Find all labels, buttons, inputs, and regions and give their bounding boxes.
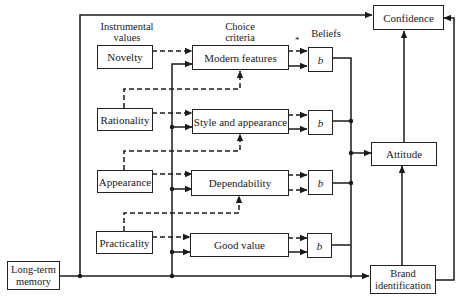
outcome-confidence: Confidence <box>373 5 444 30</box>
header-choice-criteria: Choice criteria <box>215 21 265 43</box>
criteria-modern-features: Modern features <box>192 45 289 70</box>
header-instrumental-values: Instrumental values <box>92 21 162 43</box>
criteria-good-value: Good value <box>190 233 289 257</box>
value-appearance: Appearance <box>97 170 153 193</box>
criteria-dependability: Dependability <box>191 170 289 196</box>
value-novelty: Novelty <box>97 45 153 69</box>
outcome-attitude: Attitude <box>371 142 437 166</box>
belief-box-2: b <box>308 110 333 135</box>
belief-box-1: b <box>308 47 333 72</box>
value-rationality: Rationality <box>97 108 153 131</box>
belief-box-3: b <box>308 170 333 195</box>
source-long-term-memory: Long-term memory <box>7 261 60 290</box>
header-beliefs: Beliefs <box>306 28 346 39</box>
outcome-brand-identification: Brand identification <box>370 265 436 294</box>
value-practicality: Practicality <box>96 231 153 254</box>
belief-box-4: b <box>307 233 332 258</box>
criteria-style-and-appearance: Style and appearance <box>192 109 289 134</box>
asterisk-note: * <box>295 35 300 45</box>
